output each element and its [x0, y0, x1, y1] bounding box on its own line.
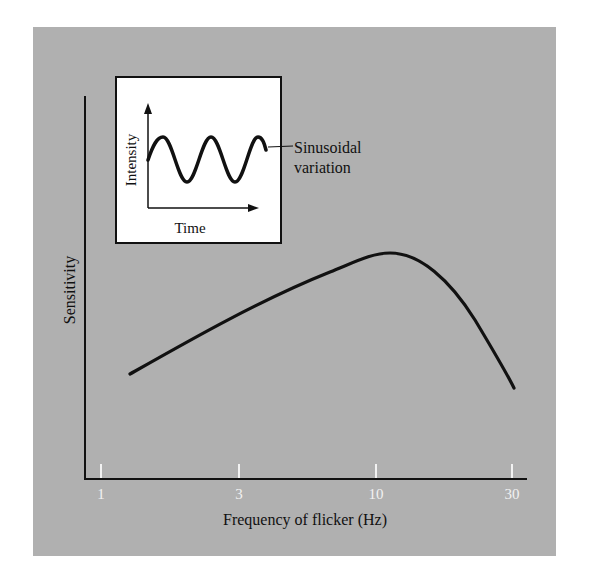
inset-y-label: Intensity [123, 133, 139, 186]
x-tick-label-3: 3 [235, 486, 243, 502]
chart-svg: 1 3 10 30 Frequency of flicker (Hz) Sens… [0, 0, 590, 588]
annotation-line-2: variation [294, 159, 351, 176]
annotation-line-1: Sinusoidal [294, 139, 362, 156]
x-tick-label-30: 30 [505, 486, 520, 502]
x-tick-label-10: 10 [369, 486, 384, 502]
y-axis-label: Sensitivity [61, 256, 79, 324]
inset-plot: Intensity Time [116, 77, 281, 243]
x-axis-label: Frequency of flicker (Hz) [223, 511, 387, 529]
inset-x-label: Time [174, 220, 205, 236]
x-ticks [101, 464, 512, 478]
sensitivity-curve [130, 253, 514, 388]
x-tick-label-1: 1 [97, 486, 105, 502]
